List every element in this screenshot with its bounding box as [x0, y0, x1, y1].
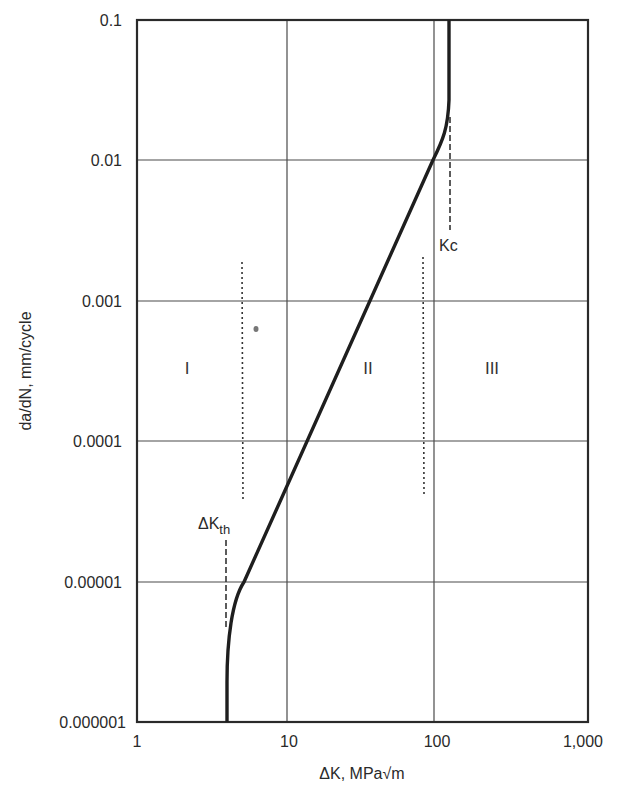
kth-main: ΔK: [198, 515, 220, 532]
y-tick-0.0001: 0.0001: [73, 433, 122, 450]
region-boundary-2-3: [423, 257, 424, 494]
x-tick-labels: 1 10 100 1,000: [133, 733, 604, 750]
region-label-iii: III: [485, 359, 499, 378]
y-tick-0.1: 0.1: [100, 12, 122, 29]
x-tick-1: 1: [133, 733, 142, 750]
x-axis-title: ΔK, MPa√m: [319, 765, 404, 782]
ink-speck: [254, 326, 259, 332]
x-tick-100: 100: [424, 733, 451, 750]
y-tick-labels: 0.1 0.01 0.001 0.0001 0.00001 0.000001: [59, 12, 126, 731]
x-tick-10: 10: [280, 733, 298, 750]
y-tick-0.01: 0.01: [91, 152, 122, 169]
y-tick-0.00001: 0.00001: [64, 574, 122, 591]
region-boundary-1-2: [242, 262, 243, 500]
crack-growth-curve: [227, 20, 449, 722]
kth-subscript: th: [219, 522, 230, 537]
region-label-ii: II: [363, 359, 372, 378]
x-tick-1000: 1,000: [563, 733, 603, 750]
kc-annotation: Kc: [439, 237, 458, 254]
fatigue-crack-growth-chart: 0.1 0.01 0.001 0.0001 0.00001 0.000001 1…: [0, 0, 621, 793]
region-label-i: I: [185, 359, 190, 378]
y-axis-title: da/dN, mm/cycle: [17, 311, 34, 430]
kth-annotation: ΔKth: [198, 515, 230, 537]
y-tick-0.000001: 0.000001: [59, 714, 126, 731]
y-tick-0.001: 0.001: [82, 293, 122, 310]
